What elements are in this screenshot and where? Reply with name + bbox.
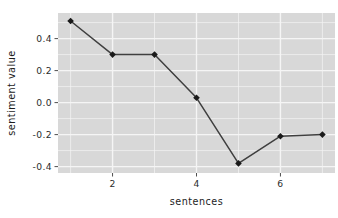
chart-figure: 0.40.20.0-0.2-0.4 246 sentences sentimen…: [0, 0, 338, 218]
y-axis-title: sentiment value: [6, 50, 17, 135]
x-axis-tick-label: 6: [277, 178, 283, 189]
y-axis-tick-label: -0.4: [32, 161, 52, 172]
x-axis-title: sentences: [170, 196, 223, 207]
y-axis-tick-label: 0.2: [36, 65, 52, 76]
y-axis-tick-label: -0.2: [32, 129, 52, 140]
y-axis-tick-labels: 0.40.20.0-0.2-0.4: [32, 33, 52, 172]
y-axis-tick-label: 0.0: [36, 97, 52, 108]
sentiment-line-chart: 0.40.20.0-0.2-0.4 246 sentences sentimen…: [0, 0, 338, 218]
x-axis-tick-labels: 246: [109, 178, 283, 189]
y-axis-tick-label: 0.4: [36, 33, 52, 44]
x-axis-tick-label: 2: [109, 178, 115, 189]
x-axis-tick-label: 4: [193, 178, 199, 189]
